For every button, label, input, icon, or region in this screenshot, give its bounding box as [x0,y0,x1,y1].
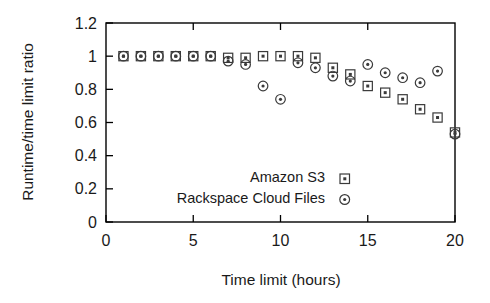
series-markers [119,51,460,139]
data-point [380,68,390,78]
y-axis-tick-label: 0 [88,214,97,231]
y-axis-tick-label: 1.2 [75,15,97,32]
x-axis-tick-label: 15 [359,232,377,249]
y-axis-tick-label: 0.8 [75,81,97,98]
y-axis-tick-label: 0.6 [75,114,97,131]
data-point [206,51,216,61]
data-point [415,78,425,88]
data-point [171,51,181,61]
data-point [346,76,356,86]
data-point [433,66,443,76]
data-point [119,51,129,61]
data-point [293,58,303,68]
series-amazon-s3 [119,52,460,137]
x-axis-tick-label: 10 [272,232,290,249]
x-axis-tick-label: 0 [102,232,111,249]
data-point [188,51,198,61]
x-axis-tick-label: 5 [189,232,198,249]
data-point [363,60,373,70]
circle-marker-icon [340,195,350,205]
legend-label-rackspace-cloud-files: Rackspace Cloud Files [177,190,325,206]
data-point [276,94,286,104]
data-point [433,113,442,122]
chart-legend: Amazon S3 Rackspace Cloud Files [177,169,350,206]
series-rackspace-cloud-files [119,51,460,139]
square-marker-icon [340,174,350,184]
data-point [258,52,267,61]
data-point [311,63,321,73]
legend-label-amazon-s3: Amazon S3 [250,169,325,185]
y-axis: 00.20.40.60.811.2 [75,15,113,231]
data-point [241,60,251,70]
data-point [154,51,164,61]
data-point [276,52,285,61]
y-axis-tick-label: 1 [88,48,97,65]
chart-canvas: 00.20.40.60.811.2 05101520 Runtime/time … [0,0,490,303]
data-point [416,105,425,114]
data-point [363,81,372,90]
data-point [258,81,268,91]
data-point [136,51,146,61]
y-axis-tick-label: 0.2 [75,180,97,197]
data-point [381,88,390,97]
scatter-chart-figure: 00.20.40.60.811.2 05101520 Runtime/time … [0,0,490,303]
y-axis-title: Runtime/time limit ratio [19,43,36,201]
data-point [398,73,408,83]
x-axis-title: Time limit (hours) [221,271,340,288]
y-axis-tick-label: 0.4 [75,147,97,164]
data-point [311,53,320,62]
x-axis: 05101520 [102,23,464,249]
x-axis-tick-label: 20 [446,232,464,249]
data-point [398,95,407,104]
